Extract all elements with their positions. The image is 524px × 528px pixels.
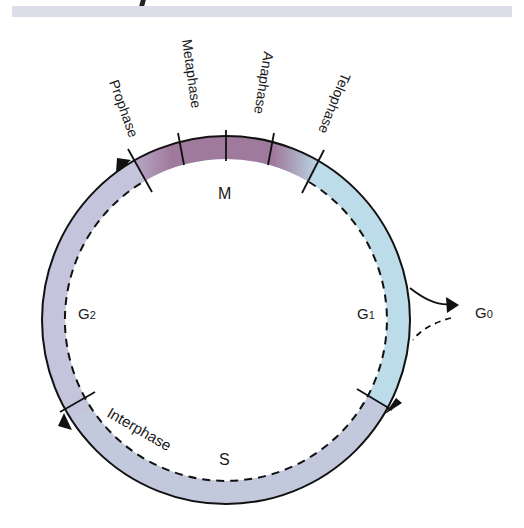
g0-exit-path <box>410 288 452 304</box>
phase-ticks <box>60 130 392 412</box>
g0-return-path <box>413 318 451 340</box>
label-anaphase: Anaphase <box>251 51 277 116</box>
label-g2: G2 <box>78 305 96 322</box>
cell-cycle-diagram: Prophase Metaphase Anaphase Telophase M … <box>0 0 524 528</box>
g1-segment <box>309 162 410 406</box>
g2-segment <box>42 161 145 420</box>
label-metaphase: Metaphase <box>179 38 205 109</box>
label-g0: G0 <box>475 304 493 321</box>
label-g1: G1 <box>357 305 375 322</box>
label-telophase: Telophase <box>315 71 354 136</box>
label-s: S <box>219 451 230 468</box>
mitosis-segment <box>135 136 321 182</box>
label-prophase: Prophase <box>106 78 142 140</box>
g0-arrow-icon <box>446 297 459 313</box>
label-m: M <box>218 185 231 202</box>
